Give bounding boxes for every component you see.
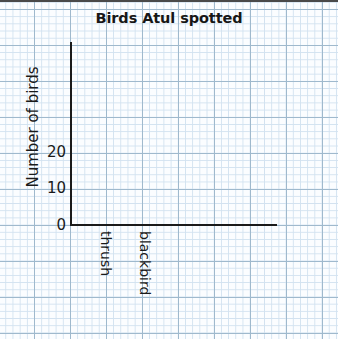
- x-axis-category-label-thrush: thrush: [98, 231, 114, 276]
- chart-title: Birds Atul spotted: [0, 10, 338, 26]
- plot-area: [72, 42, 277, 224]
- x-axis-line: [70, 224, 277, 226]
- y-axis-tick-label-10: 10: [47, 181, 66, 196]
- graph-paper-chart-sheet: Birds Atul spotted Number of birds 0 10 …: [0, 0, 338, 339]
- sheet-top-border: [0, 0, 338, 2]
- y-axis-title: Number of birds: [24, 66, 42, 187]
- x-axis-category-label-blackbird: blackbird: [137, 231, 153, 295]
- y-axis-tick-label-20: 20: [47, 145, 66, 160]
- y-axis-tick-label-0: 0: [56, 218, 66, 233]
